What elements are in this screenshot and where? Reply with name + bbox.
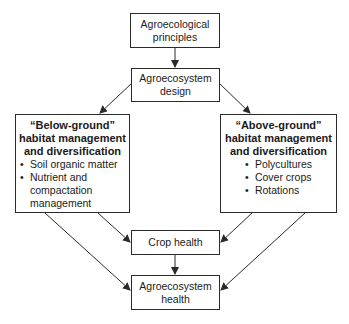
list-item: Soil organic matter bbox=[20, 158, 118, 171]
node-label-line2: design bbox=[160, 85, 191, 98]
node-title-line3: and diversification bbox=[24, 145, 121, 158]
node-title-line3: and diversification bbox=[230, 145, 327, 158]
above-ground-practices-list: Polycultures Cover crops Rotations bbox=[245, 158, 312, 197]
list-item: Polycultures bbox=[245, 158, 312, 171]
node-title-line2: habitat management bbox=[225, 132, 332, 145]
agroecological-principles-node: Agroecological principles bbox=[130, 13, 220, 48]
crop-health-node: Crop health bbox=[131, 230, 220, 255]
node-title-line1: “Above-ground” bbox=[235, 119, 321, 132]
arrow-above-to-crop-health bbox=[221, 213, 252, 242]
agroecosystem-health-node: Agroecosystem health bbox=[131, 275, 220, 310]
below-ground-management-node: “Below-ground” habitat management and di… bbox=[15, 114, 130, 213]
node-label-line2: health bbox=[161, 293, 190, 306]
arrow-design-to-above bbox=[220, 84, 250, 113]
node-label-line2: principles bbox=[153, 31, 197, 44]
list-item: Rotations bbox=[245, 184, 312, 197]
arrow-below-to-crop-health bbox=[98, 213, 130, 242]
node-label-line1: Agroecosystem bbox=[139, 280, 211, 293]
node-label-line1: Agroecological bbox=[141, 18, 210, 31]
above-ground-management-node: “Above-ground” habitat management and di… bbox=[220, 114, 337, 213]
arrow-design-to-below bbox=[100, 84, 131, 113]
node-title-line2: habitat management bbox=[19, 132, 126, 145]
list-item: Nutrient andcompactationmanagement bbox=[20, 171, 118, 210]
node-label: Crop health bbox=[148, 236, 202, 249]
arrow-above-to-agro-health bbox=[221, 213, 305, 290]
node-label-line1: Agroecosystem bbox=[139, 72, 211, 85]
below-ground-practices-list: Soil organic matter Nutrient andcompacta… bbox=[20, 158, 118, 210]
list-item: Cover crops bbox=[245, 171, 312, 184]
agroecosystem-design-node: Agroecosystem design bbox=[131, 68, 220, 102]
node-title-line1: “Below-ground” bbox=[30, 119, 115, 132]
arrow-below-to-agro-health bbox=[45, 213, 130, 290]
